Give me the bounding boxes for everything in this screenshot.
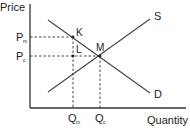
supply-label: S: [154, 10, 161, 22]
x-axis-label: Quantity: [147, 114, 188, 126]
point-m-label: M: [96, 42, 104, 53]
qm-label: Q m: [68, 112, 80, 125]
svg-text:m: m: [76, 119, 80, 125]
pm-label: P m: [16, 31, 27, 44]
point-l-label: L: [76, 44, 82, 55]
pc-label: P c: [16, 50, 26, 63]
qc-label: Q c: [95, 112, 106, 125]
point-m-marker: [99, 55, 102, 58]
svg-text:m: m: [23, 38, 27, 44]
supply-demand-diagram: Price Quantity S D K L M P m P c Q m Q c: [0, 0, 190, 131]
y-axis-label: Price: [0, 1, 25, 13]
point-k-marker: [72, 36, 75, 39]
svg-text:c: c: [103, 119, 106, 125]
point-l-marker: [72, 55, 75, 58]
svg-text:c: c: [23, 57, 26, 63]
point-k-label: K: [76, 27, 83, 38]
demand-label: D: [154, 88, 162, 100]
